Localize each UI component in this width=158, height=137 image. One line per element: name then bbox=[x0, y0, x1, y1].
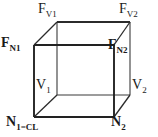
label-base: N bbox=[111, 114, 121, 129]
label-subscript: N2 bbox=[117, 45, 128, 55]
label-base: F bbox=[1, 35, 10, 50]
vertex-label-fn2: FN2 bbox=[108, 38, 128, 55]
label-subscript: V1 bbox=[46, 9, 57, 19]
label-base: V bbox=[36, 77, 46, 92]
vertex-label-n2: N2 bbox=[111, 115, 126, 132]
edge-connect-bottom-left bbox=[34, 95, 57, 117]
label-subscript: V2 bbox=[127, 9, 138, 19]
label-base: N bbox=[6, 114, 16, 129]
vertex-label-v2: V2 bbox=[132, 78, 147, 95]
vertex-label-fn1: FN1 bbox=[1, 36, 21, 53]
label-base: F bbox=[108, 37, 117, 52]
vertex-label-fv1: FV1 bbox=[38, 2, 57, 19]
label-subscript: 1=CL bbox=[16, 122, 38, 132]
label-base: F bbox=[119, 1, 127, 16]
cube-back-face bbox=[57, 22, 130, 95]
label-subscript: N1 bbox=[10, 43, 21, 53]
label-base: F bbox=[38, 1, 46, 16]
label-subscript: 1 bbox=[46, 85, 51, 95]
vertex-label-fv2: FV2 bbox=[119, 2, 138, 19]
vertex-label-n1: N1=CL bbox=[6, 115, 38, 132]
cube-diagram: FV1 FV2 FN1 FN2 V1 V2 N1=CL N2 bbox=[0, 0, 158, 137]
label-subscript: 2 bbox=[142, 85, 147, 95]
edge-connect-top-left bbox=[34, 22, 57, 45]
label-base: V bbox=[132, 77, 142, 92]
vertex-label-v1: V1 bbox=[36, 78, 51, 95]
label-subscript: 2 bbox=[121, 122, 126, 132]
